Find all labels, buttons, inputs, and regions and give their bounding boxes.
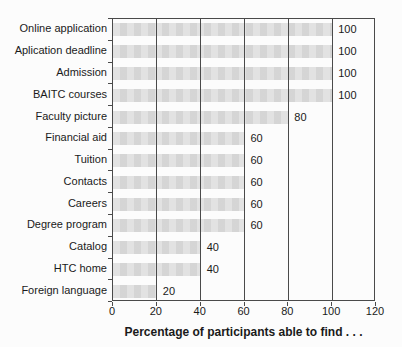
- y-axis-tick: [108, 105, 112, 106]
- value-label: 100: [338, 67, 356, 80]
- bar-baitc-courses: [113, 89, 332, 102]
- category-label: Financial aid: [0, 131, 107, 144]
- gridline-x-100: [332, 19, 333, 300]
- x-axis-tick-label: 60: [229, 305, 259, 317]
- value-label: 60: [251, 198, 263, 211]
- y-axis-tick: [108, 127, 112, 128]
- value-label: 60: [251, 132, 263, 145]
- value-label: 40: [207, 241, 219, 254]
- value-label: 60: [251, 176, 263, 189]
- category-label: Aplication deadline: [0, 44, 107, 57]
- y-axis-tick: [108, 18, 112, 19]
- x-axis-tick-label: 80: [272, 305, 302, 317]
- category-label: Catalog: [0, 240, 107, 253]
- y-axis-tick: [108, 214, 112, 215]
- value-label: 60: [251, 154, 263, 167]
- bar-degree-program: [113, 219, 245, 232]
- bar-aplication-deadline: [113, 45, 332, 58]
- gridline-x-80: [288, 19, 289, 300]
- category-label: Admission: [0, 66, 107, 79]
- category-label: Careers: [0, 197, 107, 210]
- value-label: 100: [338, 23, 356, 36]
- bar-admission: [113, 67, 332, 80]
- bar-chart: 100100100100806060606060404020 Online ap…: [0, 0, 402, 347]
- y-axis-tick: [108, 170, 112, 171]
- value-label: 60: [251, 219, 263, 232]
- x-axis-tick-label: 40: [185, 305, 215, 317]
- category-label: Contacts: [0, 175, 107, 188]
- y-axis-tick: [108, 40, 112, 41]
- y-axis-tick: [108, 258, 112, 259]
- bar-foreign-language: [113, 285, 157, 298]
- category-label: Degree program: [0, 218, 107, 231]
- category-label: Tuition: [0, 153, 107, 166]
- y-axis-tick: [108, 149, 112, 150]
- y-axis-tick: [108, 279, 112, 280]
- y-axis-tick: [108, 236, 112, 237]
- bar-online-application: [113, 23, 332, 36]
- category-label: BAITC courses: [0, 88, 107, 101]
- x-axis-tick-label: 20: [141, 305, 171, 317]
- plot-area: 100100100100806060606060404020: [112, 18, 375, 301]
- value-label: 20: [163, 285, 175, 298]
- y-axis-tick: [108, 192, 112, 193]
- category-label: HTC home: [0, 262, 107, 275]
- value-label: 40: [207, 263, 219, 276]
- value-label: 100: [338, 45, 356, 58]
- bar-financial-aid: [113, 132, 245, 145]
- gridline-x-20: [156, 19, 157, 300]
- y-axis-tick: [108, 83, 112, 84]
- gridline-x-40: [200, 19, 201, 300]
- bar-careers: [113, 198, 245, 211]
- category-label: Faculty picture: [0, 110, 107, 123]
- bar-contacts: [113, 176, 245, 189]
- gridline-x-60: [244, 19, 245, 300]
- bar-tuition: [113, 154, 245, 167]
- category-label: Online application: [0, 22, 107, 35]
- x-axis-title: Percentage of participants able to find …: [112, 325, 375, 339]
- category-label: Foreign language: [0, 284, 107, 297]
- x-axis-tick-label: 100: [316, 305, 346, 317]
- value-label: 100: [338, 89, 356, 102]
- y-axis-tick: [108, 62, 112, 63]
- x-axis-tick-label: 0: [97, 305, 127, 317]
- value-label: 80: [294, 111, 306, 124]
- x-axis-tick-label: 120: [360, 305, 390, 317]
